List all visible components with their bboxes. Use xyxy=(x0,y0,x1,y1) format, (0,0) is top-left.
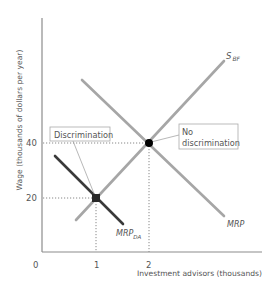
discrimination-callout: Discrimination xyxy=(50,127,113,141)
no-discrimination-label-line2: discrimination xyxy=(182,138,240,148)
mrp-da-label: MRPDA xyxy=(116,229,142,240)
y-tick-20: 20 xyxy=(26,193,37,203)
y-tick-40: 40 xyxy=(26,138,37,148)
x-axis-title: Investment advisors (thousands) xyxy=(137,269,262,278)
mrp-label: MRP xyxy=(227,220,244,229)
discrimination-leader-line xyxy=(73,141,95,196)
sbf-label: SBF xyxy=(226,51,241,62)
y-axis-title: Wage (thousands of dollars per year) xyxy=(15,50,24,191)
mrp-da-curve xyxy=(55,156,123,224)
no-discrimination-callout: No discrimination xyxy=(179,124,240,149)
no-discrimination-label-line1: No xyxy=(182,127,193,137)
origin-label: 0 xyxy=(33,260,38,270)
labor-market-discrimination-chart: Discrimination No discrimination SBF MRP… xyxy=(0,0,275,288)
discrimination-label: Discrimination xyxy=(54,130,113,140)
x-tick-1: 1 xyxy=(94,260,99,270)
discrimination-point xyxy=(92,194,100,202)
no-discrimination-point xyxy=(145,139,153,147)
